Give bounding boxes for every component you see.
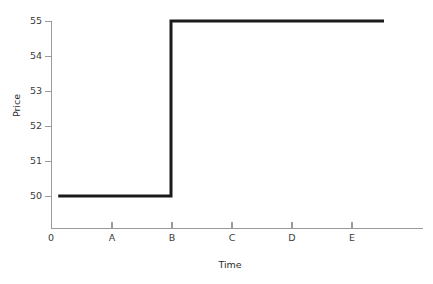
x-tick-label-a: A <box>100 232 124 243</box>
x-tick-b <box>171 222 172 228</box>
chart-canvas: 55 54 53 52 51 50 0 A B C D E Price Time <box>0 0 433 284</box>
x-tick-label-b: B <box>160 232 184 243</box>
y-axis-title: Price <box>11 82 22 130</box>
series-layer <box>0 0 433 284</box>
y-tick-55 <box>45 21 51 22</box>
y-tick-51 <box>45 161 51 162</box>
x-tick-label-c: C <box>220 232 244 243</box>
x-tick-label-0: 0 <box>39 232 63 243</box>
y-tick-50 <box>45 196 51 197</box>
x-tick-c <box>231 222 232 228</box>
y-tick-label-53: 53 <box>18 86 42 96</box>
y-tick-label-51: 51 <box>18 156 42 166</box>
x-axis-line <box>51 228 423 229</box>
x-tick-label-e: E <box>340 232 364 243</box>
x-tick-d <box>291 222 292 228</box>
x-axis-title: Time <box>0 259 433 270</box>
y-tick-53 <box>45 91 51 92</box>
x-tick-e <box>351 222 352 228</box>
y-tick-label-55: 55 <box>18 16 42 26</box>
y-tick-52 <box>45 126 51 127</box>
y-tick-label-50: 50 <box>18 191 42 201</box>
x-tick-a <box>111 222 112 228</box>
y-axis-line <box>51 21 52 228</box>
y-tick-label-54: 54 <box>18 51 42 61</box>
y-tick-label-52: 52 <box>18 121 42 131</box>
x-tick-label-d: D <box>280 232 304 243</box>
y-tick-54 <box>45 56 51 57</box>
series-line-price <box>58 21 384 196</box>
